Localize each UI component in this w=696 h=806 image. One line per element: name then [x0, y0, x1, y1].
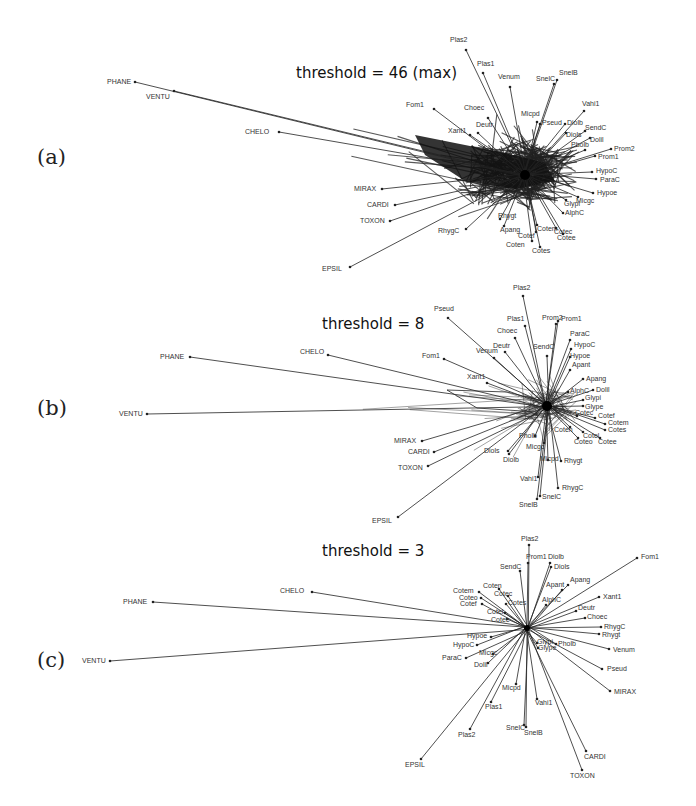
node-label: Vahi1 — [582, 100, 599, 107]
node-label: AlphC — [565, 209, 584, 217]
node-plas2 — [465, 49, 468, 52]
node-label: MIRAX — [394, 437, 417, 444]
node-label: Hypoe — [597, 189, 617, 197]
node-label: Cotec — [494, 590, 513, 597]
node-label: Vahi1 — [520, 475, 537, 482]
node-pseud — [447, 317, 450, 320]
node-label: Micgc — [479, 649, 498, 657]
node-epsil — [420, 758, 423, 761]
node-cardi — [394, 204, 397, 207]
node-pholb — [584, 149, 587, 152]
node-label: TOXON — [570, 772, 595, 779]
hub-node — [524, 625, 530, 631]
node-label: Venum — [476, 347, 498, 354]
node-label: Apant — [546, 581, 564, 589]
node-hypoc — [570, 348, 573, 351]
node-label: AlphC — [542, 596, 561, 604]
panel-b-graph: PHANEVENTUCHELOMIRAXCARDITOXONEPSILPseud… — [119, 284, 629, 524]
node-label: PHANE — [107, 78, 131, 85]
node-deutr — [477, 132, 480, 135]
node-label: Dolil — [590, 136, 604, 143]
node-hypoc — [476, 644, 479, 647]
node-venum — [608, 648, 611, 651]
node-alphc — [562, 212, 565, 215]
node-glype — [582, 405, 585, 408]
node-label: Cotee — [491, 616, 510, 623]
node-label: Cotem — [453, 587, 474, 594]
node-snelb — [525, 726, 528, 729]
node-label: HypoC — [574, 341, 595, 349]
node-label: Apant — [572, 361, 590, 369]
node-phane — [189, 356, 192, 359]
node-label: Venum — [613, 646, 635, 653]
node-label: Choec — [464, 104, 485, 111]
node-label: VENTU — [82, 657, 106, 664]
node-label: Apang — [586, 375, 606, 383]
node-label: Glypi — [585, 394, 601, 402]
node-label: Xant1 — [467, 373, 485, 380]
node-fom1 — [443, 358, 446, 361]
node-label: EPSIL — [405, 761, 425, 768]
node-xant1 — [469, 134, 472, 137]
node-epsil — [349, 266, 352, 269]
node-label: Cotem — [608, 419, 629, 426]
hub-node — [520, 170, 530, 180]
node-label: Plas2 — [521, 535, 539, 542]
node-prom1 — [557, 320, 560, 323]
node-label: Micpd — [521, 110, 540, 118]
node-toxon — [389, 220, 392, 223]
node-label: Diolb — [548, 553, 564, 560]
node-micpd — [536, 121, 539, 124]
node-plas2b — [469, 728, 472, 731]
node-label: Deutr — [578, 604, 596, 611]
node-label: Glypi — [564, 200, 580, 208]
node-label: EPSIL — [372, 517, 392, 524]
node-sendc — [519, 570, 522, 573]
node-label: SnelC — [506, 724, 525, 731]
node-label: Prom2 — [542, 314, 563, 321]
node-parac — [465, 657, 468, 660]
node-label: Vahi1 — [535, 699, 552, 706]
node-rhygc — [600, 626, 603, 629]
node-hypoe — [592, 192, 595, 195]
node-xant1 — [598, 596, 601, 599]
node-diolb — [564, 123, 567, 126]
node-hypoc — [591, 171, 594, 174]
node-label: Plas2 — [458, 731, 476, 738]
node-rhygt — [560, 460, 563, 463]
node-label: VENTU — [146, 93, 170, 100]
node-label: ParaC — [600, 176, 620, 183]
node-cotel — [504, 612, 507, 615]
node-label: Fom1 — [641, 553, 659, 560]
node-label: Cotef — [598, 412, 615, 419]
node-label: Pseud — [434, 305, 454, 312]
node-label: MIRAX — [614, 688, 637, 695]
node-label: Prom1 — [526, 553, 547, 560]
node-hypoe — [490, 636, 493, 639]
node-plas2 — [522, 295, 525, 298]
node-mirax — [421, 440, 424, 443]
node-label: EPSIL — [322, 265, 342, 272]
node-chelo — [311, 591, 314, 594]
node-ventu — [146, 413, 149, 416]
node-label: Cotes — [508, 599, 527, 606]
node-label: Hypoe — [570, 352, 590, 360]
node-label: SnelC — [536, 75, 555, 82]
node-label: Prom2 — [614, 145, 635, 152]
node-label: Choec — [497, 327, 518, 334]
node-label: VENTU — [119, 410, 143, 417]
node-label: Diols — [554, 563, 570, 570]
node-chelo — [327, 354, 330, 357]
node-diolb — [549, 562, 552, 565]
node-label: Hypoe — [467, 632, 487, 640]
node-choec — [487, 117, 490, 120]
node-label: Diols — [484, 447, 500, 454]
node-label: SendC — [533, 343, 554, 350]
node-cotef — [594, 417, 597, 420]
node-label: Plas1 — [507, 315, 525, 322]
node-snelb — [556, 79, 559, 82]
node-snelc — [539, 495, 542, 498]
node-cotem — [478, 591, 481, 594]
node-toxon — [427, 465, 430, 468]
node-label: Plas2 — [513, 284, 531, 291]
